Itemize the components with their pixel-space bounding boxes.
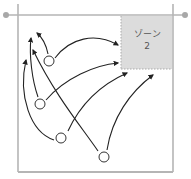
player-circle (56, 133, 66, 143)
arrow-p2-zone (46, 63, 118, 100)
player-circle (35, 99, 45, 109)
zone-label-line1: ゾーン (121, 28, 173, 40)
zone-2-label: ゾーン 2 (121, 28, 173, 52)
right-endpoint-dot (182, 12, 188, 18)
arrow-p1-zone (55, 38, 118, 58)
player-circle (99, 152, 109, 162)
left-endpoint-dot (3, 12, 9, 18)
player-circle (44, 56, 54, 66)
players (35, 56, 109, 162)
arrow-p2-up (30, 38, 38, 97)
zone-label-line2: 2 (121, 40, 173, 52)
arrow-p4-zone (107, 75, 153, 150)
zone-diagram (0, 0, 191, 179)
arrow-p1-up (37, 33, 48, 54)
